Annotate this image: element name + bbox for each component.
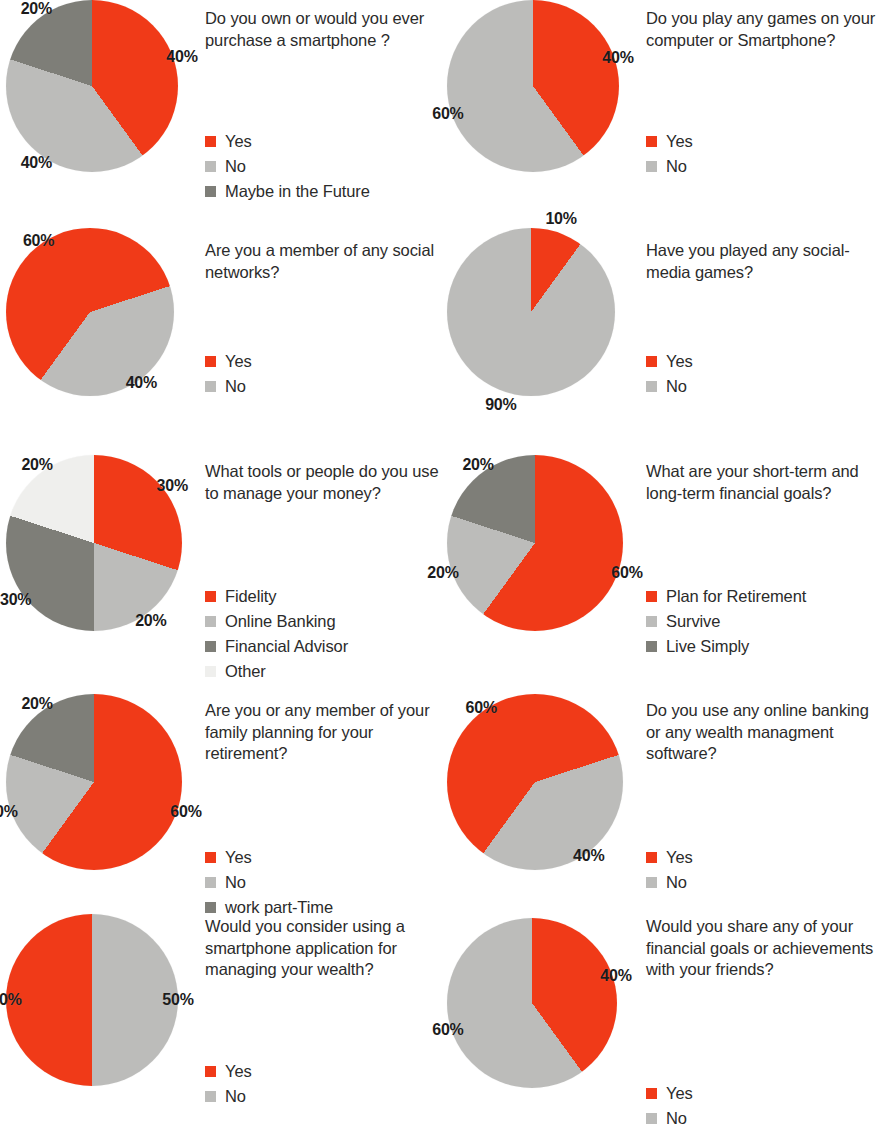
legend-swatch-icon <box>646 591 657 602</box>
question-title: Do you play any games on your computer o… <box>646 8 882 51</box>
pie-graphic-play-games: 40%60% <box>447 0 619 172</box>
pie-slices: 10%90% <box>447 228 615 396</box>
legend-label: No <box>666 377 687 396</box>
pie-slice-label: 60% <box>170 803 201 821</box>
pie-slice-label: 30% <box>157 477 188 495</box>
pie-slice-label: 20% <box>462 456 493 474</box>
legend-swatch-icon <box>205 161 216 172</box>
pie-slice-label: 40% <box>602 49 633 67</box>
legend-label: Yes <box>225 132 252 151</box>
legend-item[interactable]: Yes <box>646 1081 882 1106</box>
legend-label: No <box>225 873 246 892</box>
chart-text-column: Are you or any member of your family pla… <box>205 694 441 920</box>
legend-label: No <box>225 157 246 176</box>
legend-label: Yes <box>666 848 693 867</box>
chart-text-column: What tools or people do you use to manag… <box>205 455 441 684</box>
pie-slice-label: 50% <box>0 991 22 1009</box>
legend-item[interactable]: Yes <box>205 129 441 154</box>
legend-item[interactable]: Yes <box>205 845 441 870</box>
legend-swatch-icon <box>205 1066 216 1077</box>
question-title: Do you use any online banking or any wea… <box>646 700 882 765</box>
legend-item[interactable]: No <box>646 1106 882 1128</box>
legend-label: No <box>666 157 687 176</box>
legend-label: No <box>666 1109 687 1128</box>
chart-legend: YesNo <box>646 845 882 895</box>
legend-swatch-icon <box>205 591 216 602</box>
legend-label: No <box>225 377 246 396</box>
pie-slice-label: 90% <box>485 396 516 414</box>
legend-item[interactable]: Live Simply <box>646 634 882 659</box>
legend-swatch-icon <box>205 1091 216 1102</box>
chart-text-column: Would you consider using a smartphone ap… <box>205 908 441 1109</box>
pie-slice-label: 40% <box>600 967 631 985</box>
legend-label: Financial Advisor <box>225 637 348 656</box>
legend-item[interactable]: Fidelity <box>205 584 441 609</box>
legend-swatch-icon <box>646 852 657 863</box>
pie-graphic-financial-goals: 60%20%20% <box>447 455 623 631</box>
question-title: Have you played any social-media games? <box>646 240 882 283</box>
legend-item[interactable]: Yes <box>646 845 882 870</box>
legend-swatch-icon <box>205 641 216 652</box>
pie-graphic-retirement-planning: 60%20%20% <box>6 694 182 870</box>
pie-slice-label: 40% <box>573 847 604 865</box>
legend-swatch-icon <box>646 641 657 652</box>
legend-label: Maybe in the Future <box>225 182 370 201</box>
legend-item[interactable]: Online Banking <box>205 609 441 634</box>
pie-graphic-social-networks: 60%40% <box>6 228 174 396</box>
legend-label: No <box>666 873 687 892</box>
legend-item[interactable]: No <box>646 374 882 399</box>
legend-swatch-icon <box>205 381 216 392</box>
legend-item[interactable]: Other <box>205 659 441 684</box>
pie-slice-label: 20% <box>0 803 18 821</box>
legend-item[interactable]: No <box>205 1084 441 1109</box>
chart-legend: YesNoMaybe in the Future <box>205 129 441 204</box>
pie-slices: 60%40% <box>6 228 174 396</box>
pie-graphic-smartphone-ownership: 40%40%20% <box>6 0 178 172</box>
legend-item[interactable]: No <box>646 154 882 179</box>
legend-swatch-icon <box>205 186 216 197</box>
pie-slice-label: 60% <box>432 105 463 123</box>
legend-swatch-icon <box>646 1113 657 1124</box>
question-title: Would you share any of your financial go… <box>646 916 882 981</box>
legend-swatch-icon <box>646 877 657 888</box>
question-title: Are you a member of any social networks? <box>205 240 441 283</box>
legend-item[interactable]: Survive <box>646 609 882 634</box>
legend-item[interactable]: Yes <box>205 349 441 374</box>
legend-item[interactable]: Maybe in the Future <box>205 179 441 204</box>
chart-text-column: Have you played any social-media games?Y… <box>646 228 882 399</box>
chart-text-column: What are your short-term and long-term f… <box>646 455 882 659</box>
legend-swatch-icon <box>646 161 657 172</box>
chart-legend: YesNo <box>646 1081 882 1128</box>
legend-label: Yes <box>225 848 252 867</box>
legend-swatch-icon <box>205 136 216 147</box>
legend-item[interactable]: Yes <box>646 349 882 374</box>
legend-label: Live Simply <box>666 637 749 656</box>
legend-label: Yes <box>666 132 693 151</box>
legend-label: Yes <box>666 1084 693 1103</box>
pie-slice-label: 20% <box>135 612 166 630</box>
pie-graphic-money-management-tools: 30%20%30%20% <box>6 455 182 631</box>
legend-swatch-icon <box>646 136 657 147</box>
legend-item[interactable]: Financial Advisor <box>205 634 441 659</box>
pie-slice-label: 20% <box>21 0 52 18</box>
legend-swatch-icon <box>646 381 657 392</box>
legend-swatch-icon <box>205 877 216 888</box>
legend-item[interactable]: No <box>205 154 441 179</box>
legend-item[interactable]: Plan for Retirement <box>646 584 882 609</box>
legend-item[interactable]: No <box>205 374 441 399</box>
pie-slice-label: 60% <box>611 564 642 582</box>
pie-slice-label: 60% <box>432 1021 463 1039</box>
legend-label: Fidelity <box>225 587 276 606</box>
legend-label: Yes <box>225 352 252 371</box>
question-title: Are you or any member of your family pla… <box>205 700 441 765</box>
pie-slice-label: 10% <box>545 210 576 228</box>
chart-text-column: Do you use any online banking or any wea… <box>646 694 882 895</box>
legend-item[interactable]: No <box>205 870 441 895</box>
legend-item[interactable]: No <box>646 870 882 895</box>
legend-item[interactable]: Yes <box>646 129 882 154</box>
pie-graphic-smartphone-wealth-app: 50%50% <box>6 914 178 1086</box>
chart-legend: YesNo <box>646 349 882 399</box>
legend-item[interactable]: Yes <box>205 1059 441 1084</box>
pie-slice-label: 20% <box>427 564 458 582</box>
pie-slices: 50%50% <box>6 914 178 1086</box>
